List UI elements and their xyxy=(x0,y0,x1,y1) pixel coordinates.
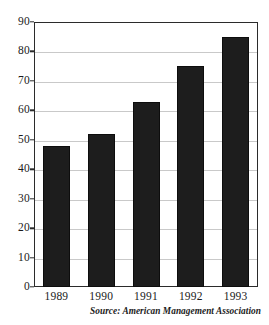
y-axis-tick-label: 20 xyxy=(0,222,30,234)
y-axis-tick-label: 60 xyxy=(0,105,30,117)
x-axis-tick-label: 1989 xyxy=(44,290,68,303)
bar xyxy=(222,37,249,287)
x-axis-tick-label: 1991 xyxy=(134,290,158,303)
x-axis-tick-label: 1993 xyxy=(224,290,248,303)
bar xyxy=(43,146,70,287)
bar xyxy=(88,134,115,287)
x-axis-tick-label: 1992 xyxy=(179,290,203,303)
y-axis-tick-label: 80 xyxy=(0,46,30,58)
y-axis-tick-label: 50 xyxy=(0,134,30,146)
source-note: Source: American Management Association xyxy=(90,306,261,316)
bars-layer xyxy=(34,22,258,287)
y-axis-tick-label: 10 xyxy=(0,252,30,264)
x-axis: 19891990199119921993 xyxy=(34,290,258,306)
y-axis-tick-label: 30 xyxy=(0,193,30,205)
bar xyxy=(133,102,160,288)
x-axis-tick-label: 1990 xyxy=(89,290,113,303)
y-axis-tick-label: 0 xyxy=(0,281,30,293)
bar-chart-figure: 0102030405060708090 19891990199119921993… xyxy=(0,0,269,325)
y-axis-tick-label: 90 xyxy=(0,16,30,28)
bar xyxy=(177,66,204,287)
y-axis: 0102030405060708090 xyxy=(0,22,30,287)
y-axis-tick-label: 40 xyxy=(0,163,30,175)
y-axis-tick-label: 70 xyxy=(0,75,30,87)
